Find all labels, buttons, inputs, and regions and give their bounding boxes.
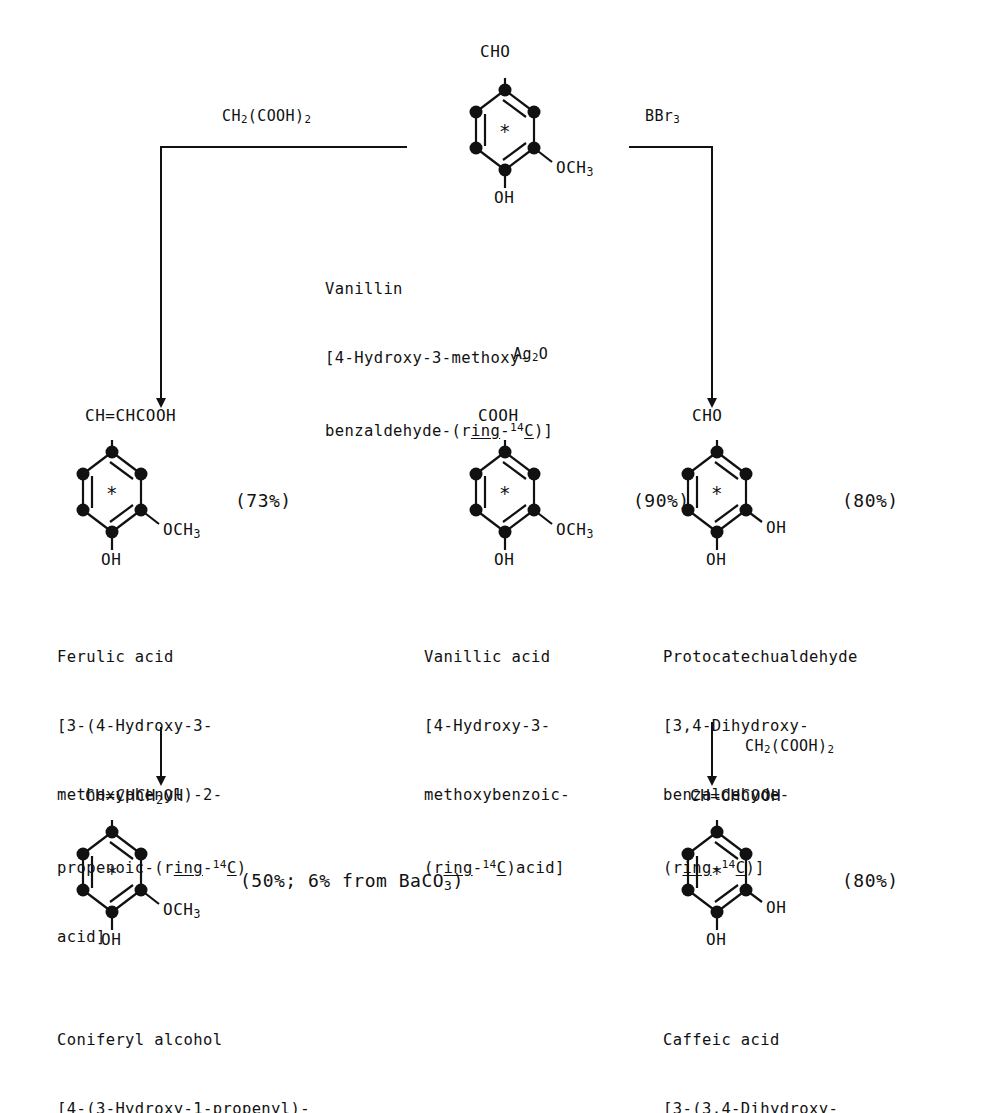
coniferyl-yield: (50%; 6% from BaCO3) xyxy=(240,870,464,893)
vanillin-label-star: * xyxy=(500,122,510,141)
caption-caffeic-acid: Caffeic acid [3-(3,4-Dihydroxy- phenyl)-… xyxy=(663,983,858,1113)
caffeic-bottom-group: OH xyxy=(706,930,726,949)
coniferyl-label-star: * xyxy=(107,864,117,883)
vanillic-bottom-group: OH xyxy=(494,550,514,569)
protocatechualdehyde-bottom-group: OH xyxy=(706,550,726,569)
caption-vanillic-acid: Vanillic acid [4-Hydroxy-3- methoxybenzo… xyxy=(424,600,570,903)
coniferyl-right-group: OCH3 xyxy=(163,900,201,921)
vanillic-top-group: COOH xyxy=(478,406,519,425)
reagent-left-branch: CH2(COOH)2 xyxy=(222,107,311,126)
vanillin-name: Vanillin xyxy=(325,278,553,301)
caption-vanillin: Vanillin [4-Hydroxy-3-methoxy- benzaldeh… xyxy=(325,232,553,466)
molecule-protocatechualdehyde: CHO * OH OH (80%) xyxy=(680,440,754,544)
ferulic-label-star: * xyxy=(107,484,117,503)
caffeic-label-star: * xyxy=(712,864,722,883)
molecule-coniferyl-alcohol: CH=CHCH2OH * OCH3 OH (50%; 6% from BaCO3… xyxy=(75,820,149,924)
ferulic-top-group: CH=CHCOOH xyxy=(85,406,176,425)
vanillic-right-group: OCH3 xyxy=(556,520,594,541)
ferulic-bottom-group: OH xyxy=(101,550,121,569)
protocatechualdehyde-right-group: OH xyxy=(766,518,786,537)
vanillic-line2: methoxybenzoic- xyxy=(424,784,570,807)
vanillic-line1: [4-Hydroxy-3- xyxy=(424,715,570,738)
molecule-vanillin: CHO * OCH3 OH xyxy=(468,78,542,182)
molecule-vanillic-acid: COOH * OCH3 OH (90%) xyxy=(468,440,542,544)
reagent-right-branch: BBr3 xyxy=(645,107,680,126)
vanillin-ring: * xyxy=(468,78,542,182)
protocatechualdehyde-line1: [3,4-Dihydroxy- xyxy=(663,715,858,738)
vanillic-ring: * xyxy=(468,440,542,544)
protocatechualdehyde-top-group: CHO xyxy=(692,406,722,425)
ferulic-line1: [3-(4-Hydroxy-3- xyxy=(57,715,246,738)
vanillin-top-group: CHO xyxy=(480,42,510,61)
vanillic-label-star: * xyxy=(500,484,510,503)
caffeic-line1: [3-(3,4-Dihydroxy- xyxy=(663,1098,858,1113)
vanillin-bottom-group: OH xyxy=(494,188,514,207)
protocatechualdehyde-ring: * xyxy=(680,440,754,544)
vanillin-iupac-line2: benzaldehyde-(ring-14C)] xyxy=(325,416,553,443)
ferulic-yield: (73%) xyxy=(235,490,292,511)
right-branch-horizontal-line xyxy=(629,146,713,148)
coniferyl-ring: * xyxy=(75,820,149,924)
molecule-caffeic-acid: CH=CHCOOH * OH OH (80%) xyxy=(680,820,754,924)
vanillin-iupac-line1: [4-Hydroxy-3-methoxy- xyxy=(325,347,553,370)
molecule-ferulic-acid: CH=CHCOOH * OCH3 OH (73%) xyxy=(75,440,149,544)
left-branch-vertical-line xyxy=(160,146,162,401)
coniferyl-bottom-group: OH xyxy=(101,930,121,949)
protocatechualdehyde-yield: (80%) xyxy=(842,490,899,511)
coniferyl-top-group: CH=CHCH2OH xyxy=(85,786,184,807)
protocatechualdehyde-label-star: * xyxy=(712,484,722,503)
vanillic-name: Vanillic acid xyxy=(424,646,570,669)
coniferyl-name: Coniferyl alcohol xyxy=(57,1029,315,1052)
caffeic-right-group: OH xyxy=(766,898,786,917)
vanillin-right-group: OCH3 xyxy=(556,158,594,179)
coniferyl-line1: [4-(3-Hydroxy-1-propenyl)- xyxy=(57,1098,315,1113)
left-branch-horizontal-line xyxy=(161,146,407,148)
caffeic-yield: (80%) xyxy=(842,870,899,891)
protocatechualdehyde-name: Protocatechualdehyde xyxy=(663,646,858,669)
caffeic-ring: * xyxy=(680,820,754,924)
ferulic-name: Ferulic acid xyxy=(57,646,246,669)
caffeic-name: Caffeic acid xyxy=(663,1029,858,1052)
right-branch-vertical-line xyxy=(711,146,713,401)
caffeic-top-group: CH=CHCOOH xyxy=(690,786,781,805)
ferulic-right-group: OCH3 xyxy=(163,520,201,541)
ferulic-ring: * xyxy=(75,440,149,544)
caption-coniferyl-alcohol: Coniferyl alcohol [4-(3-Hydroxy-1-propen… xyxy=(57,983,315,1113)
